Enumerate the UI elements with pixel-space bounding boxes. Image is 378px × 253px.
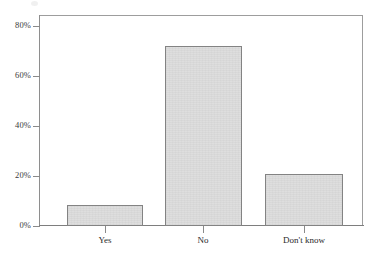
bar-yes	[67, 205, 143, 226]
y-axis-label-60: 60%	[0, 71, 31, 80]
scan-artifact	[31, 1, 38, 6]
y-axis-label-80: 80%	[0, 21, 31, 30]
bar-chart: 0% 20% 40% 60% 80% Yes No Don't know	[0, 0, 378, 253]
x-axis-tick-no	[203, 226, 204, 233]
y-axis-label-0: 0%	[0, 221, 31, 230]
bar-dont-know	[265, 174, 343, 226]
y-axis-tick-40	[33, 126, 40, 127]
x-axis-label-yes: Yes	[98, 235, 111, 246]
y-axis-tick-80	[33, 26, 40, 27]
x-axis-label-no: No	[198, 235, 209, 246]
y-axis-tick-20	[33, 176, 40, 177]
y-axis-tick-60	[33, 76, 40, 77]
x-axis-tick-yes	[105, 226, 106, 233]
x-axis-label-dont-know: Don't know	[283, 235, 325, 246]
y-axis-line	[39, 15, 40, 226]
y-axis-label-40: 40%	[0, 121, 31, 130]
bar-no	[165, 46, 242, 226]
y-axis-label-20: 20%	[0, 171, 31, 180]
x-axis-tick-dont-know	[304, 226, 305, 233]
y-axis-tick-0	[33, 226, 40, 227]
